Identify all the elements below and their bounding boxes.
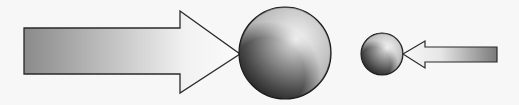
large-sphere <box>239 7 331 99</box>
force-diagram <box>0 0 519 105</box>
small-sphere <box>361 33 403 75</box>
small-arrow <box>403 41 497 68</box>
diagram-canvas <box>0 0 519 105</box>
large-arrow <box>24 11 240 93</box>
